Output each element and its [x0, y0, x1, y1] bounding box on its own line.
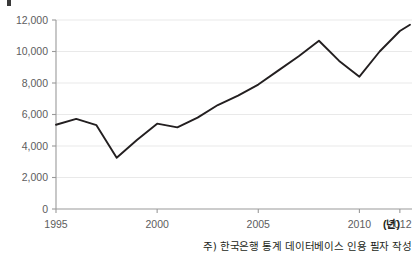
y-axis-tick-label: 2,000	[22, 171, 48, 183]
y-axis-tick-label: 10,000	[16, 45, 48, 57]
gridlines-group	[56, 20, 412, 178]
line-chart: 02,0004,0006,0008,00010,00012,000 199520…	[0, 0, 418, 232]
y-axis-tick-label: 8,000	[22, 77, 48, 89]
source-footnote: 주) 한국은행 통계 데이터베이스 인용 필자 작성	[203, 238, 412, 253]
x-axis-ticks-group	[56, 209, 400, 213]
x-axis-tick-label: 2000	[145, 218, 169, 230]
y-axis-tick-label: 6,000	[22, 108, 48, 120]
x-axis-unit-label: (년)	[383, 218, 400, 230]
y-axis-tick-label: 0	[42, 203, 48, 215]
x-axis-tick-label: 2005	[247, 218, 271, 230]
chart-figure: 02,0004,0006,0008,00010,00012,000 199520…	[0, 0, 418, 260]
x-axis-tick-label: 2010	[348, 218, 372, 230]
data-series-line	[56, 25, 410, 158]
y-axis-ticks-group	[52, 20, 56, 209]
x-axis-labels-group: 19952000200520102012	[44, 218, 411, 230]
y-axis-tick-label: 12,000	[16, 14, 48, 26]
y-axis-labels-group: 02,0004,0006,0008,00010,00012,000	[16, 14, 48, 215]
y-axis-tick-label: 4,000	[22, 140, 48, 152]
chart-canvas: 02,0004,0006,0008,00010,00012,000 199520…	[0, 0, 418, 232]
x-axis-tick-label: 1995	[44, 218, 68, 230]
